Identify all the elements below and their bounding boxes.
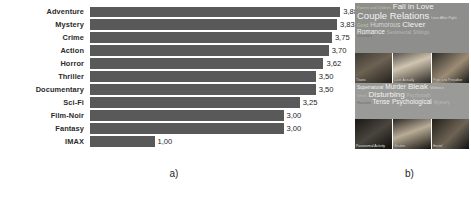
wordcloud-term: Humorous — [370, 22, 400, 29]
bar-row: Fantasy3,00 — [0, 123, 348, 135]
bar-category-label: Horror — [0, 58, 90, 70]
movie-thumbnail-caption: Paranormal Activity — [356, 144, 391, 148]
bar-fill — [90, 136, 155, 146]
wordcloud-term: Fall in Love — [393, 3, 434, 11]
bar-category-label: Thriller — [0, 71, 90, 83]
wordcloud-romance: Parents and ChildrenFall in LoveCouple R… — [355, 3, 469, 53]
bar-track: 3,50 — [90, 71, 348, 83]
bar-track: 3,50 — [90, 84, 348, 96]
wordcloud-line: GoodHumorousClever — [355, 21, 469, 29]
bar-chart: Adventure3,88Mystery3,83Crime3,75Action3… — [0, 6, 348, 154]
movie-thumbnail: Love Actually — [393, 53, 430, 83]
bar-row: Film-Noir3,00 — [0, 110, 348, 122]
wordcloud-horror: SupernaturalMurderBleakViolenceGhostDist… — [355, 83, 469, 119]
movie-thumbnail-caption: Pride and Prejudice — [433, 78, 468, 82]
bar-category-label: Action — [0, 45, 90, 57]
wordcloud-term: Clever — [402, 21, 425, 29]
bar-row: Adventure3,88 — [0, 6, 348, 18]
movie-thumbnail-caption: Titanic — [356, 78, 391, 82]
figure-root: Adventure3,88Mystery3,83Crime3,75Action3… — [0, 0, 471, 201]
wordcloud-line: Relations — [355, 35, 469, 39]
movie-thumbnail: Pride and Prejudice — [432, 53, 469, 83]
movie-thumbnail-caption: Hostel — [433, 144, 468, 148]
bar-track: 3,70 — [90, 45, 348, 57]
movie-thumbnail: Hostel — [432, 119, 469, 149]
wordcloud-term: Violence — [430, 87, 444, 91]
wordcloud-line: Couple RelationsLove After Fight — [355, 11, 469, 21]
bar-row: Action3,70 — [0, 45, 348, 57]
bar-row: Horror3,62 — [0, 58, 348, 70]
movie-thumbnail-caption: Love Actually — [394, 78, 429, 82]
wordcloud-term: Couple Relations — [357, 11, 429, 21]
bar-track: 3,88 — [90, 6, 348, 18]
bar-track: 3,00 — [90, 110, 348, 122]
wordcloud-term: Ghost — [357, 95, 367, 99]
thumbnail-strip-romance: TitanicLove ActuallyPride and Prejudice — [355, 53, 469, 83]
wordcloud-term: Relations — [357, 35, 372, 39]
bar-value-label: 3,62 — [323, 58, 341, 70]
movie-thumbnail: Paranormal Activity — [355, 119, 392, 149]
wordcloud-line: SupernaturalMurderBleakViolence — [355, 83, 469, 91]
bar-fill — [90, 19, 337, 29]
bar-row: Mystery3,83 — [0, 19, 348, 31]
bar-value-label: 3,25 — [300, 97, 318, 109]
bar-row: Documentary3,50 — [0, 84, 348, 96]
wordcloud-term: Good — [357, 24, 368, 29]
bar-fill — [90, 84, 316, 94]
wordcloud-term: Disturbing — [369, 91, 405, 99]
wordcloud-term: Sentimental — [387, 31, 411, 36]
bar-category-label: Adventure — [0, 6, 90, 18]
wordcloud-term: Love After Fight — [431, 17, 456, 21]
bar-fill — [90, 58, 323, 68]
bar-category-label: Mystery — [0, 19, 90, 31]
wordcloud-line: HauntedTensePsychologicalMystery — [355, 99, 469, 106]
bar-value-label: 3,00 — [284, 123, 302, 135]
bar-value-label: 3,70 — [329, 45, 347, 57]
bar-category-label: Film-Noir — [0, 110, 90, 122]
bar-track: 3,62 — [90, 58, 348, 70]
bar-category-label: Documentary — [0, 84, 90, 96]
wordcloud-line: RomanceSentimentalSiblings — [355, 29, 469, 36]
bar-category-label: Fantasy — [0, 123, 90, 135]
bar-fill — [90, 110, 284, 120]
wordcloud-line: GhostDisturbingPsychopath — [355, 91, 469, 99]
wordcloud-term: Bleak — [408, 83, 428, 91]
bar-value-label: 1,00 — [155, 136, 173, 148]
bar-category-label: IMAX — [0, 136, 90, 148]
wordcloud-term: Siblings — [413, 31, 429, 36]
wordcloud-term: Haunted — [357, 102, 371, 106]
caption-a: a) — [0, 168, 348, 179]
bar-row: Sci-Fi3,25 — [0, 97, 348, 109]
wordcloud-term: Murder — [385, 84, 406, 91]
wordcloud-line: Parents and ChildrenFall in Love — [355, 3, 469, 11]
movie-thumbnail-caption: Shutter — [394, 144, 429, 148]
bar-value-label: 3,50 — [316, 84, 334, 96]
bar-fill — [90, 7, 340, 17]
movie-thumbnail: Titanic — [355, 53, 392, 83]
bar-track: 3,83 — [90, 19, 348, 31]
wordcloud-term: Romance — [357, 29, 385, 36]
wordcloud-term: Psychopath — [407, 94, 431, 99]
bar-fill — [90, 123, 284, 133]
bar-fill — [90, 45, 329, 55]
bar-track: 1,00 — [90, 136, 348, 148]
bar-row: Crime3,75 — [0, 32, 348, 44]
bar-category-label: Sci-Fi — [0, 97, 90, 109]
thumbnail-strip-horror: Paranormal ActivityShutterHostel — [355, 119, 469, 149]
bar-value-label: 3,75 — [332, 32, 350, 44]
wordcloud-term: Psychological — [392, 99, 432, 106]
bar-row: Thriller3,50 — [0, 71, 348, 83]
bar-fill — [90, 71, 316, 81]
wordcloud-term: Supernatural — [357, 86, 383, 91]
wordcloud-term: Mystery — [434, 101, 450, 106]
caption-b: b) — [348, 168, 471, 179]
bar-track: 3,25 — [90, 97, 348, 109]
bar-track: 3,00 — [90, 123, 348, 135]
wordcloud-term: Tense — [373, 99, 390, 106]
bar-fill — [90, 97, 300, 107]
bar-category-label: Crime — [0, 32, 90, 44]
bar-row: IMAX1,00 — [0, 136, 348, 148]
movie-thumbnail: Shutter — [393, 119, 430, 149]
bar-fill — [90, 32, 332, 42]
bar-track: 3,75 — [90, 32, 348, 44]
